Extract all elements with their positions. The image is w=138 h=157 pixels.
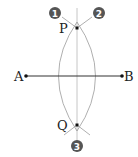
step-number-3: 3 (74, 142, 80, 152)
step-number-1: 1 (52, 9, 58, 19)
arc-tick-p-right (77, 17, 92, 28)
label-b: B (124, 69, 134, 84)
step-number-2: 2 (96, 9, 102, 19)
step-badge-3: 3 (71, 140, 83, 152)
step-badge-2: 2 (93, 7, 105, 19)
construction-diagram: A B P Q 1 2 3 (0, 0, 138, 157)
label-p: P (59, 21, 68, 36)
arc-tick-q-right (77, 125, 90, 135)
point-p (76, 27, 79, 30)
step-badge-1: 1 (49, 7, 61, 19)
label-a: A (13, 69, 24, 84)
point-a (24, 74, 28, 78)
point-q (76, 124, 79, 127)
label-q: Q (57, 118, 68, 133)
